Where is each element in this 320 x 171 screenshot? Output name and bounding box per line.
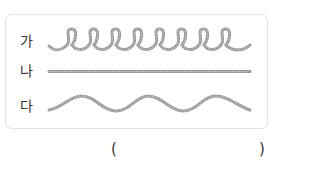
answer-close-paren: ) [259,140,265,158]
answer-blank[interactable] [122,140,254,160]
answer-open-paren: ( [111,140,117,158]
rope-da-wavy [49,96,250,111]
rope-ga-coiled [49,29,250,50]
